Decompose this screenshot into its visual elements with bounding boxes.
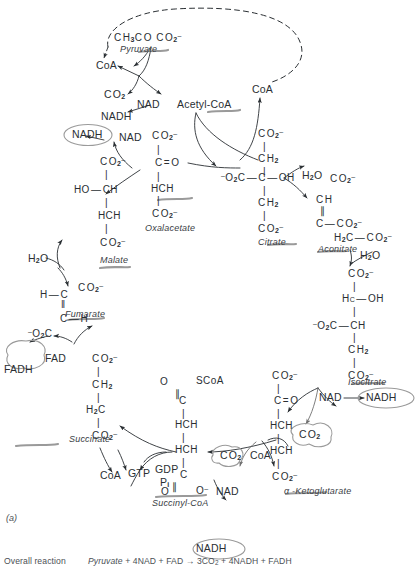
cofactor-nadh-top: NADH [101, 111, 132, 122]
formula-succinate-ch2: C H2 [92, 380, 113, 390]
formula-aconitate-ch: C H [316, 195, 332, 205]
bond-succinate-1: | [97, 367, 100, 377]
bond-malate-2: | [105, 198, 108, 208]
name-oxalacetate: Oxalacetate [145, 224, 195, 233]
cofactor-co2-top: C O2 [104, 89, 125, 100]
bond-oxalacetate-3: | [157, 196, 160, 206]
cofactor-co2-circled-ketoglutarate: C O2 [299, 429, 320, 440]
bond-akg-4: | [277, 459, 280, 469]
bond-akg-2: | [277, 409, 280, 419]
formula-succinate-co2-top: C O2– [92, 353, 118, 364]
bond-akg-1: | [277, 384, 280, 394]
formula-oxalacetate-co2-bot: C O2– [152, 208, 178, 219]
bond-citrate-3: | [263, 186, 266, 196]
bond-oxalacetate-1: | [157, 145, 160, 155]
bond-succinyl-2: | [182, 433, 185, 443]
cofactor-h2o-fumarate: H2O [28, 253, 48, 264]
formula-citrate-ch2-bot: C H2 [258, 198, 279, 208]
formula-aconitate-h2c-co2: H2C — C O2– [334, 232, 392, 243]
name-alpha-ketoglutarate: α -Ketoglutarate [284, 487, 351, 496]
overall-reaction-label: Overall reaction [4, 557, 66, 566]
formula-aconitate-c-co2: C — C O2– [316, 218, 362, 229]
cofactor-gdp: GDP [155, 464, 178, 475]
formula-succinyl-c2: C [180, 470, 188, 480]
bond-isocitrate-2: | [353, 307, 356, 317]
bond-malate-1: | [105, 170, 108, 180]
formula-isocitrate-co2-top: C O2– [348, 268, 374, 279]
overall-reaction-equation: Pyruvate + 4NAD + FAD → 3CO2 + 4NADH + F… [88, 557, 292, 566]
cofactor-coa-succinate: CoA [100, 470, 121, 481]
formula-isocitrate-hc-oh: HC — OH [342, 294, 384, 304]
name-succinate: Succinate [69, 435, 110, 444]
formula-fumarate-co2-top: C O2– [78, 282, 104, 293]
formula-succinyl-scoa: SCoA [196, 376, 224, 386]
cofactor-acetyl-coa: Acetyl-CoA [177, 99, 232, 110]
cofactor-nadh-circled-isocitrate: NADH [366, 392, 397, 403]
formula-akg-co2-bot: C O2– [272, 471, 298, 482]
bond-isocitrate-4: | [353, 358, 356, 368]
formula-malate-co2-top: C O2– [100, 156, 126, 167]
name-malate: Malate [100, 256, 128, 265]
cofactor-nad-top: NAD [137, 99, 160, 110]
bond-akg-3: | [277, 434, 280, 444]
name-succinyl-coa: Succinyl-CoA [152, 499, 208, 508]
bond-malate-3: | [105, 224, 108, 234]
bond-succinate-3: | [97, 418, 100, 428]
name-citrate: Citrate [258, 238, 286, 247]
cofactor-nad-ketoglutarate: NAD [216, 486, 239, 497]
cofactor-h2o-aconitate: H2O [360, 250, 380, 261]
formula-citrate-ch2-top: C H2 [258, 154, 279, 164]
overall-reaction-title: Overall reaction [4, 556, 66, 566]
formula-pyruvate: C H3C O C O2– [114, 32, 182, 43]
cofactor-h2o-citrate: H2O [302, 170, 322, 181]
cofactor-nadh-circled-bottom: NADH [196, 543, 227, 554]
formula-citrate-co2-top: C O2– [258, 128, 284, 139]
formula-succinyl-ominus: O– [196, 485, 208, 496]
formula-isocitrate-ch2: C H2 [348, 345, 369, 355]
formula-akg-co2-top: C O2– [272, 370, 298, 381]
bond-succinyl-3: | [182, 458, 185, 468]
bond-isocitrate-1: | [353, 282, 356, 292]
formula-fumarate-o2c: –O2C [28, 328, 52, 339]
bond-aconitate-double: ∥ [320, 206, 325, 216]
bond-oxalacetate-2: | [157, 172, 160, 182]
cofactor-fadh-circled: FADH [4, 364, 33, 375]
bond-isocitrate-3: | [353, 333, 356, 343]
formula-akg-carbonyl: C = O [274, 396, 299, 406]
formula-succinyl-c: C [179, 396, 187, 406]
name-fumarate: Fumarate [65, 310, 105, 319]
formula-citrate-co2-bot: C O2– [258, 223, 284, 234]
name-aconitate: Aconitate [318, 245, 357, 254]
panel-letter: (a) [6, 514, 17, 523]
formula-aconitate-co2-top: C O2– [330, 173, 356, 184]
name-isocitrate: Isocitrate [348, 378, 387, 387]
cofactor-coa-ketoglutarate: CoA [250, 450, 271, 461]
formula-malate-hch: HCH [98, 211, 121, 221]
bond-citrate-4: | [263, 211, 266, 221]
name-pyruvate: Pyruvate [120, 45, 157, 54]
formula-succinyl-hch1: HCH [175, 420, 198, 430]
cofactor-co2-circled-isocitrate: C O2 [220, 450, 241, 461]
cofactor-coa-top-right: CoA [252, 84, 273, 95]
cofactor-fad: FAD [45, 353, 66, 364]
formula-succinyl-o2: O [161, 487, 169, 497]
bond-succinyl-1: | [182, 409, 185, 419]
cofactor-coa-top-left: CoA [96, 60, 117, 71]
formula-succinyl-hch2: HCH [175, 445, 198, 455]
formula-citrate-core: –O2C — C — OH [221, 172, 295, 183]
formula-oxalacetate-carbonyl: C = O [155, 158, 180, 168]
formula-succinyl-o: O [160, 377, 168, 387]
cofactor-nad-isocitrate: NAD [319, 392, 342, 403]
formula-oxalacetate-hch: HCH [151, 184, 174, 194]
figure-canvas: C H3C O C O2– Pyruvate CoA C O2 NAD Acet… [0, 0, 417, 567]
formula-akg-hch2: HCH [270, 446, 293, 456]
cofactor-gtp: GTP [128, 468, 150, 479]
bond-succinate-2: | [97, 393, 100, 403]
cofactor-nad-malate: NAD [119, 132, 142, 143]
bond-succinyl-double2: ∥ [172, 482, 177, 492]
formula-akg-hch1: HCH [270, 421, 293, 431]
formula-isocitrate-o2c-ch: –O2C — CH [313, 320, 366, 331]
formula-malate-co2-bot: C O2– [100, 237, 126, 248]
cofactor-nadh-circled-malate: NADH [72, 129, 103, 140]
formula-malate-ho-ch: HO — CH [74, 185, 118, 195]
